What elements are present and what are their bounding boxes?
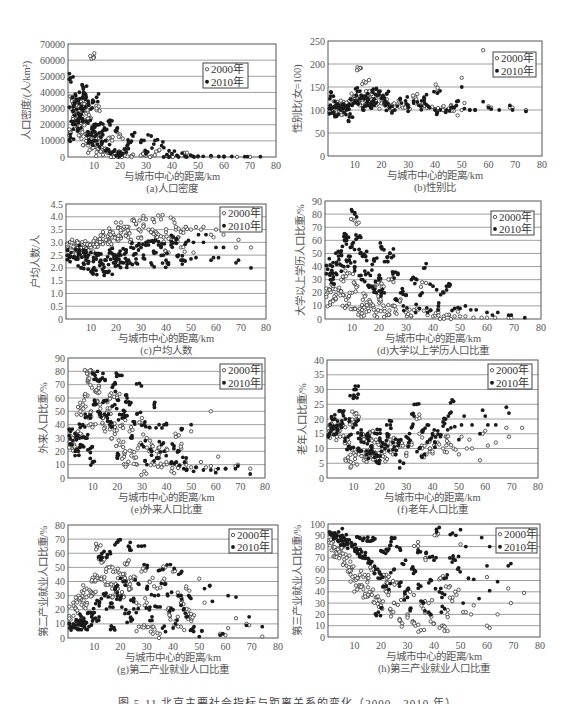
data-point bbox=[438, 89, 442, 93]
data-point bbox=[179, 594, 183, 598]
data-point bbox=[202, 225, 205, 228]
data-point bbox=[330, 541, 333, 544]
data-point bbox=[412, 593, 415, 596]
data-point bbox=[371, 588, 374, 591]
data-point bbox=[385, 432, 389, 436]
y-tick-label: 0 bbox=[60, 473, 65, 484]
data-point bbox=[107, 263, 111, 267]
data-point bbox=[335, 273, 339, 277]
legend-marker-open-icon bbox=[498, 533, 501, 536]
data-point bbox=[411, 422, 415, 426]
y-tick-label: 80 bbox=[55, 520, 65, 531]
data-point bbox=[488, 589, 492, 593]
data-point bbox=[97, 105, 100, 108]
data-point bbox=[176, 591, 179, 594]
data-point bbox=[83, 412, 87, 416]
x-axis-label: 与城市中心的距离/km bbox=[384, 491, 480, 503]
data-point bbox=[427, 581, 431, 585]
data-point bbox=[103, 430, 106, 433]
data-point bbox=[338, 250, 342, 254]
y-tick-label: 50 bbox=[55, 406, 65, 417]
legend: 2000年2010年 bbox=[488, 363, 532, 389]
y-tick-label: 30 bbox=[55, 590, 65, 601]
data-point bbox=[364, 81, 367, 84]
data-point bbox=[345, 236, 349, 240]
data-point bbox=[455, 104, 459, 108]
x-axis-label: 与城市中心的距离/km bbox=[385, 332, 481, 344]
data-point bbox=[485, 311, 489, 315]
data-point bbox=[421, 430, 425, 434]
data-point bbox=[101, 267, 105, 271]
data-point bbox=[260, 625, 264, 629]
data-point bbox=[418, 446, 422, 450]
data-point bbox=[508, 104, 512, 108]
data-point bbox=[408, 432, 412, 436]
data-point bbox=[373, 564, 377, 568]
x-axis-label: 与城市中心的距离/km bbox=[118, 491, 214, 503]
data-point bbox=[365, 259, 369, 263]
data-point bbox=[413, 622, 416, 625]
data-point bbox=[126, 229, 129, 232]
data-point bbox=[431, 555, 435, 559]
data-point bbox=[370, 262, 374, 266]
data-point bbox=[419, 599, 423, 603]
data-point bbox=[381, 600, 384, 603]
data-point bbox=[372, 451, 376, 455]
scatter-plot-grid: 0100002000030000400005000060000700001020… bbox=[0, 0, 575, 704]
data-point bbox=[394, 448, 398, 452]
data-point bbox=[393, 583, 396, 586]
y-tick-label: 40 bbox=[315, 586, 325, 597]
data-point bbox=[165, 261, 169, 265]
data-point bbox=[140, 423, 144, 427]
data-point bbox=[68, 128, 71, 131]
data-point bbox=[416, 544, 419, 547]
data-point bbox=[507, 411, 511, 415]
data-point bbox=[389, 543, 393, 547]
x-tick-label: 20 bbox=[116, 641, 126, 652]
data-point bbox=[115, 429, 118, 432]
data-point bbox=[159, 582, 163, 586]
data-point bbox=[86, 151, 89, 154]
data-point bbox=[449, 443, 452, 446]
data-point bbox=[125, 393, 129, 397]
data-point bbox=[370, 593, 373, 596]
data-point bbox=[156, 235, 159, 238]
data-point bbox=[85, 436, 89, 440]
data-point bbox=[79, 628, 83, 632]
data-point bbox=[132, 462, 135, 465]
data-point bbox=[134, 252, 138, 256]
data-point bbox=[456, 310, 459, 313]
data-point bbox=[159, 586, 162, 589]
x-tick-label: 40 bbox=[162, 481, 172, 492]
data-point bbox=[91, 426, 94, 429]
data-point bbox=[406, 596, 410, 600]
data-point bbox=[374, 438, 377, 441]
data-point bbox=[520, 426, 523, 429]
data-point bbox=[153, 406, 157, 410]
data-point bbox=[79, 266, 83, 270]
data-point bbox=[156, 631, 159, 634]
x-axis-label: 与城市中心的距离/km bbox=[387, 169, 483, 181]
data-point bbox=[69, 80, 73, 84]
data-point bbox=[167, 155, 171, 159]
data-point bbox=[68, 617, 71, 620]
data-point bbox=[324, 264, 328, 268]
data-point bbox=[113, 390, 117, 394]
data-point bbox=[77, 422, 81, 426]
data-point bbox=[248, 472, 252, 476]
legend-label-2010: 2010年 bbox=[211, 75, 244, 88]
data-point bbox=[123, 147, 127, 151]
data-point bbox=[112, 149, 116, 153]
data-point bbox=[496, 311, 500, 315]
data-point bbox=[82, 445, 86, 449]
data-point bbox=[108, 143, 112, 147]
data-point bbox=[354, 547, 358, 551]
data-point bbox=[230, 155, 234, 159]
data-point bbox=[415, 100, 419, 104]
data-point bbox=[451, 599, 454, 602]
data-point bbox=[83, 255, 87, 259]
data-point bbox=[144, 243, 148, 247]
data-point bbox=[394, 308, 397, 311]
data-point bbox=[432, 90, 436, 94]
data-point bbox=[439, 293, 443, 297]
